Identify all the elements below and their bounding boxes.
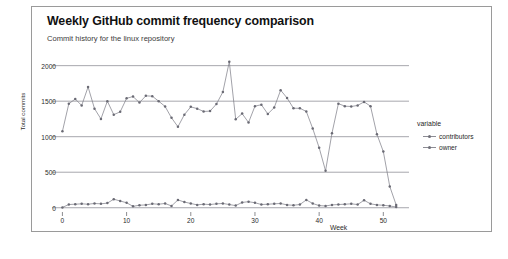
data-point <box>344 105 347 108</box>
data-point <box>164 202 167 205</box>
series-owner <box>61 198 397 209</box>
legend-item-owner[interactable]: owner <box>423 142 489 153</box>
chart-figure: Weekly GitHub commit frequency compariso… <box>0 0 508 259</box>
legend-key-icon <box>423 143 436 152</box>
data-point <box>234 204 237 207</box>
data-point <box>273 203 276 206</box>
data-point <box>100 203 103 206</box>
data-point <box>254 202 257 205</box>
data-point <box>68 203 71 206</box>
data-point <box>299 107 302 110</box>
data-point <box>106 202 109 205</box>
data-point <box>228 203 231 206</box>
data-point <box>93 202 96 205</box>
data-point <box>157 100 160 103</box>
data-point <box>177 199 180 202</box>
data-point <box>286 97 289 100</box>
data-point <box>279 89 282 92</box>
x-tick-label: 40 <box>315 217 322 224</box>
data-point <box>228 61 231 64</box>
data-point <box>209 110 212 113</box>
data-point <box>318 146 321 149</box>
x-tick-label: 10 <box>123 217 130 224</box>
data-point <box>119 111 122 114</box>
data-point <box>87 203 90 206</box>
data-point <box>395 206 398 209</box>
data-point <box>299 203 302 206</box>
data-point <box>292 204 295 207</box>
data-point <box>177 126 180 129</box>
x-tick-label: 50 <box>380 217 387 224</box>
axis-tickmarks <box>52 66 383 216</box>
data-point <box>344 203 347 206</box>
data-point <box>196 107 199 110</box>
data-point <box>132 95 135 98</box>
data-point <box>324 170 327 173</box>
data-point <box>170 117 173 120</box>
data-point <box>74 203 77 206</box>
data-point <box>106 100 109 103</box>
data-point <box>74 98 77 101</box>
data-point <box>247 121 250 124</box>
data-point <box>324 205 327 208</box>
x-tick-label: 0 <box>61 217 65 224</box>
data-point <box>337 102 340 105</box>
series-contributors <box>61 61 397 207</box>
data-point <box>87 86 90 89</box>
x-tick-label: 20 <box>187 217 194 224</box>
data-point <box>202 110 205 113</box>
data-point <box>369 105 372 108</box>
data-point <box>151 203 154 206</box>
data-point <box>286 204 289 207</box>
data-point <box>68 102 71 105</box>
data-point <box>305 110 308 113</box>
data-point <box>132 205 135 208</box>
data-point <box>119 200 122 203</box>
data-point <box>376 133 379 136</box>
data-point <box>145 204 148 207</box>
legend-key-icon <box>423 132 436 141</box>
legend-label: owner <box>439 144 457 151</box>
data-point <box>395 204 398 207</box>
data-point <box>164 105 167 108</box>
data-point <box>202 203 205 206</box>
data-point <box>241 201 244 204</box>
data-point <box>376 204 379 207</box>
gridlines <box>56 66 409 208</box>
data-point <box>350 105 353 108</box>
data-point <box>292 107 295 110</box>
data-point <box>100 118 103 121</box>
data-point <box>61 206 64 209</box>
data-series-layer <box>61 61 397 209</box>
data-point <box>234 118 237 121</box>
data-point <box>241 112 244 115</box>
data-point <box>215 103 218 106</box>
data-point <box>389 205 392 208</box>
data-point <box>267 113 270 116</box>
data-point <box>190 202 193 205</box>
data-point <box>267 203 270 206</box>
data-point <box>311 127 314 130</box>
data-point <box>125 202 128 205</box>
data-point <box>356 203 359 206</box>
data-point <box>305 199 308 202</box>
data-point <box>190 106 193 109</box>
data-point <box>157 203 160 206</box>
legend-item-contributors[interactable]: contributors <box>423 131 489 142</box>
data-point <box>260 203 263 206</box>
data-point <box>363 199 366 202</box>
data-point <box>151 95 154 98</box>
data-point <box>260 103 263 106</box>
x-tick-label: 30 <box>251 217 258 224</box>
legend-items: contributorsowner <box>417 131 489 153</box>
data-point <box>273 106 276 109</box>
data-point <box>61 130 64 133</box>
data-point <box>382 150 385 153</box>
data-point <box>113 113 116 116</box>
data-point <box>183 113 186 116</box>
data-point <box>196 204 199 207</box>
data-point <box>138 204 141 207</box>
data-point <box>125 97 128 100</box>
data-point <box>170 205 173 208</box>
data-point <box>222 91 225 94</box>
